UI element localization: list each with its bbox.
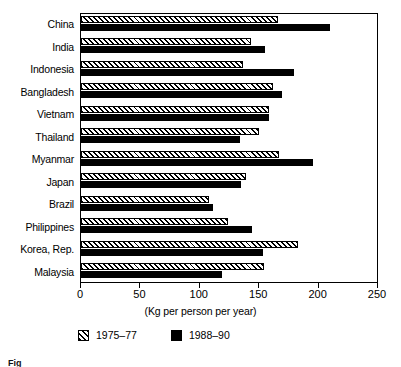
category-label-myanmar: Myanmar [0,154,74,165]
x-tick-label: 100 [190,288,208,300]
bar-group [81,216,378,239]
category-label-japan: Japan [0,176,74,187]
bar-chart: ChinaIndiaIndonesiaBangladeshVietnamThai… [0,0,401,367]
bar-1975-77 [81,83,273,90]
bar-1975-77 [81,38,251,45]
category-label-india: India [0,41,74,52]
category-label-thailand: Thailand [0,131,74,142]
x-tick-label: 250 [368,288,386,300]
bar-1988-90 [81,46,265,53]
bar-group [81,36,378,59]
x-axis-title: (Kg per person per year) [0,305,401,317]
x-tick-label: 50 [133,288,145,300]
category-label-malaysia: Malaysia [0,266,74,277]
x-tick-label: 150 [249,288,267,300]
chart-row: Malaysia [0,261,401,284]
bar-1975-77 [81,173,246,180]
category-label-korea-rep: Korea, Rep. [0,244,74,255]
bar-1988-90 [81,24,330,31]
bar-group [81,261,378,284]
chart-legend: 1975–77 1988–90 [78,329,264,341]
chart-row: Brazil [0,193,401,216]
bar-1975-77 [81,263,264,270]
bar-1975-77 [81,106,269,113]
bar-1988-90 [81,69,294,76]
bar-1975-77 [81,196,209,203]
category-label-vietnam: Vietnam [0,109,74,120]
chart-row: Thailand [0,126,401,149]
legend-swatch-solid-icon [171,330,182,341]
bar-group [81,103,378,126]
bar-1988-90 [81,204,213,211]
bar-group [81,58,378,81]
category-label-bangladesh: Bangladesh [0,86,74,97]
x-tick-label: 200 [308,288,326,300]
chart-row: Indonesia [0,58,401,81]
bar-group [81,148,378,171]
legend-item-1988-90: 1988–90 [171,329,230,341]
bar-group [81,193,378,216]
bar-group [81,238,378,261]
legend-label-1988-90: 1988–90 [189,329,230,341]
category-label-indonesia: Indonesia [0,64,74,75]
x-axis: 050100150200250 [80,283,378,289]
legend-item-1975-77: 1975–77 [78,329,137,341]
bar-1975-77 [81,241,298,248]
chart-row: Korea, Rep. [0,238,401,261]
chart-row: India [0,36,401,59]
chart-row: Philippines [0,216,401,239]
chart-row: Myanmar [0,148,401,171]
bar-1975-77 [81,151,279,158]
bar-1975-77 [81,128,259,135]
bar-group [81,81,378,104]
chart-row: Vietnam [0,103,401,126]
bar-1988-90 [81,249,263,256]
bar-group [81,13,378,36]
bar-1988-90 [81,271,222,278]
bar-group [81,171,378,194]
bar-1975-77 [81,16,278,23]
bar-1988-90 [81,159,313,166]
legend-swatch-hatched-icon [78,330,89,341]
legend-label-1975-77: 1975–77 [96,329,137,341]
bar-1988-90 [81,136,240,143]
bar-group [81,126,378,149]
category-label-brazil: Brazil [0,199,74,210]
chart-row: Bangladesh [0,81,401,104]
bar-1988-90 [81,91,282,98]
chart-rows: ChinaIndiaIndonesiaBangladeshVietnamThai… [0,13,401,283]
bar-1988-90 [81,181,241,188]
bar-1975-77 [81,61,243,68]
bar-1988-90 [81,114,269,121]
chart-row: Japan [0,171,401,194]
x-tick-label: 0 [77,288,83,300]
category-label-china: China [0,19,74,30]
bar-1988-90 [81,226,252,233]
category-label-philippines: Philippines [0,221,74,232]
bar-1975-77 [81,218,228,225]
figure-caption: Fig [8,358,22,367]
chart-row: China [0,13,401,36]
